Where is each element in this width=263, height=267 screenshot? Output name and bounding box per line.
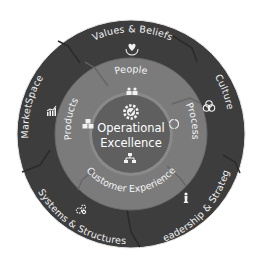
center-title-line1: Operational [97,121,164,135]
center-title-line2: Excellence [100,136,161,150]
operational-excellence-wheel: Operational Excellence People Process Cu… [0,0,263,267]
